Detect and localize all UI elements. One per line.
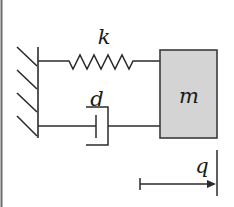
arrow-head-icon (207, 180, 216, 188)
damper-label: d (90, 89, 103, 110)
damper (38, 107, 160, 145)
spring (38, 55, 160, 69)
wall-hatching-icon (17, 47, 37, 136)
mass-label: m (179, 86, 199, 107)
mass-spring-damper-diagram: k d m q (0, 0, 234, 207)
spring-label: k (98, 27, 111, 48)
displacement-label: q (195, 156, 208, 177)
wall-support (17, 47, 38, 138)
spring-zigzag-icon (38, 55, 160, 69)
